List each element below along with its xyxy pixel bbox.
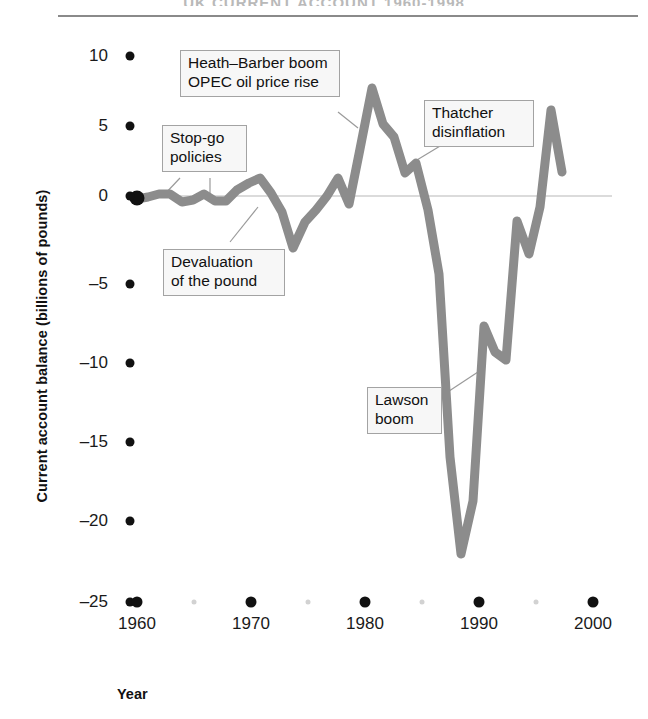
chart-figure: UK CURRENT ACCOUNT 1960-1998 Current acc… xyxy=(0,0,648,719)
x-tick-dot-1995 xyxy=(534,600,539,605)
x-tick-label-1970: 1970 xyxy=(211,614,291,634)
annotation-devaluation: Devaluation of the pound xyxy=(163,249,285,296)
annotation-lawson: Lawson boom xyxy=(367,387,442,434)
y-tick-dot-neg5 xyxy=(126,280,135,289)
y-tick-dot-10 xyxy=(126,52,135,61)
x-tick-label-1960: 1960 xyxy=(97,614,177,634)
x-tick-dot-1985 xyxy=(420,600,425,605)
x-tick-label-1990: 1990 xyxy=(439,614,519,634)
y-tick-label-neg25: –25 xyxy=(52,592,108,612)
x-tick-dot-1970 xyxy=(246,597,257,608)
y-tick-dot-neg15 xyxy=(126,438,135,447)
y-tick-dot-neg20 xyxy=(126,517,135,526)
y-tick-label-neg10: –10 xyxy=(52,353,108,373)
y-tick-label-0: 0 xyxy=(52,186,108,206)
annotation-heath-barber: Heath–Barber boom OPEC oil price rise xyxy=(180,50,340,97)
annotation-stop-go: Stop-go policies xyxy=(162,125,247,172)
x-tick-dot-1965 xyxy=(192,600,197,605)
y-tick-label-neg15: –15 xyxy=(52,432,108,452)
y-tick-label-10: 10 xyxy=(52,46,108,66)
y-tick-dot-5 xyxy=(126,122,135,131)
x-tick-dot-1960 xyxy=(132,597,143,608)
x-tick-dot-1990 xyxy=(474,597,485,608)
x-tick-dot-2000 xyxy=(588,597,599,608)
y-tick-label-5: 5 xyxy=(52,116,108,136)
y-tick-dot-0 xyxy=(126,192,135,201)
x-tick-dot-1980 xyxy=(360,597,371,608)
x-tick-label-2000: 2000 xyxy=(553,614,633,634)
y-tick-dot-neg10 xyxy=(126,359,135,368)
annotation-thatcher: Thatcher disinflation xyxy=(424,100,534,147)
y-tick-label-neg5: –5 xyxy=(52,274,108,294)
y-tick-label-neg20: –20 xyxy=(52,511,108,531)
x-tick-dot-1975 xyxy=(306,600,311,605)
x-tick-label-1980: 1980 xyxy=(325,614,405,634)
